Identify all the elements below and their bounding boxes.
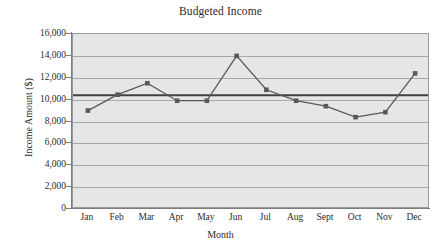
y-axis-tick-mark xyxy=(66,121,71,122)
y-axis-tick-mark xyxy=(66,55,71,56)
x-axis-title: Month xyxy=(0,229,441,240)
data-point-marker xyxy=(145,81,150,86)
y-axis-tick-label: 6,000 xyxy=(6,137,66,147)
chart-title: Budgeted Income xyxy=(0,5,441,17)
data-point-marker xyxy=(115,92,120,97)
y-axis-tick-mark xyxy=(66,142,71,143)
y-axis-tick-mark xyxy=(66,77,71,78)
data-point-marker xyxy=(234,54,239,59)
data-point-marker xyxy=(175,98,180,103)
y-axis-tick-labels: 02,0004,0006,0008,00010,00012,00014,0001… xyxy=(0,0,66,252)
y-axis-tick-mark xyxy=(66,186,71,187)
y-axis-tick-mark xyxy=(66,164,71,165)
plot-area xyxy=(72,33,429,208)
data-point-marker xyxy=(86,108,91,113)
y-axis-tick-label: 14,000 xyxy=(6,50,66,60)
data-point-marker xyxy=(353,115,358,120)
data-series-layer xyxy=(73,34,428,207)
y-axis-tick-mark xyxy=(66,33,71,34)
chart-container: Budgeted Income Income Amount ($) 02,000… xyxy=(0,0,441,252)
data-point-marker xyxy=(413,71,418,76)
y-axis-tick-label: 10,000 xyxy=(6,94,66,104)
x-axis-line xyxy=(71,208,430,209)
y-axis-tick-label: 4,000 xyxy=(6,159,66,169)
y-axis-tick-label: 12,000 xyxy=(6,72,66,82)
data-point-marker xyxy=(205,98,210,103)
data-point-marker xyxy=(264,87,269,92)
y-axis-tick-mark xyxy=(66,208,71,209)
y-axis-tick-label: 8,000 xyxy=(6,116,66,126)
data-point-marker xyxy=(383,110,388,115)
series-line xyxy=(88,56,415,117)
y-axis-tick-label: 0 xyxy=(6,203,66,213)
data-point-marker xyxy=(294,98,299,103)
y-axis-tick-mark xyxy=(66,99,71,100)
y-axis-tick-label: 2,000 xyxy=(6,181,66,191)
data-point-marker xyxy=(324,104,329,109)
y-axis-tick-label: 16,000 xyxy=(6,28,66,38)
x-axis-tick-label: Dec xyxy=(394,211,434,223)
